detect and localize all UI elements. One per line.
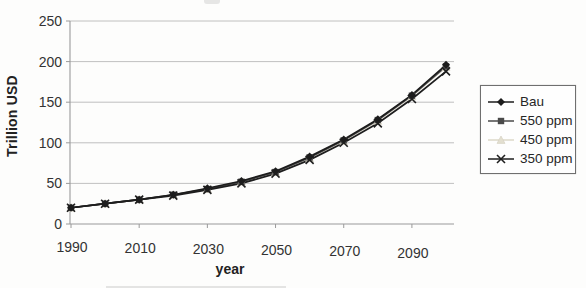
legend: Bau550 ppm450 ppm350 ppm — [480, 85, 576, 174]
legend-item-bau: Bau — [487, 92, 571, 111]
y-tick-label: 150 — [39, 94, 63, 110]
series-line-bau — [71, 65, 446, 208]
y-tick-label: 250 — [39, 13, 63, 29]
series-line-350-ppm — [71, 71, 446, 207]
x-tick-label: 2010 — [125, 240, 156, 256]
x-tick-label: 2090 — [397, 245, 428, 261]
legend-label: 450 ppm — [520, 132, 573, 147]
y-tick-label: 0 — [54, 216, 62, 232]
series-markers-350-ppm — [67, 67, 450, 211]
series-markers-bau — [67, 61, 450, 212]
scan-artifact-top — [204, 0, 220, 4]
legend-label: Bau — [520, 94, 544, 109]
scanned-line-chart-figure: 050100150200250199020102030205020702090 … — [0, 0, 586, 288]
data-point-marker — [497, 98, 505, 106]
series-markers-450-ppm — [67, 63, 450, 211]
legend-label: 350 ppm — [520, 151, 573, 166]
y-tick-label: 100 — [39, 135, 63, 151]
x-tick-label: 2070 — [329, 243, 360, 259]
x-tick-label: 2050 — [261, 242, 292, 258]
square-marker-icon — [487, 115, 517, 127]
y-tick-label: 200 — [39, 54, 63, 70]
legend-item-550-ppm: 550 ppm — [487, 111, 571, 130]
x-marker-icon — [487, 153, 517, 165]
x-tick-label: 1990 — [56, 239, 87, 255]
x-axis-title: year — [190, 261, 270, 277]
diamond-marker-icon — [487, 96, 517, 108]
y-axis-title: Trillion USD — [4, 66, 20, 166]
legend-label: 550 ppm — [520, 113, 573, 128]
legend-item-450-ppm: 450 ppm — [487, 130, 571, 149]
series-line-550-ppm — [71, 66, 446, 207]
x-tick-label: 2030 — [193, 241, 224, 257]
legend-item-350-ppm: 350 ppm — [487, 149, 571, 168]
series-markers-550-ppm — [68, 63, 449, 211]
y-tick-label: 50 — [46, 175, 62, 191]
data-point-marker — [498, 117, 504, 123]
series-line-450-ppm — [71, 67, 446, 207]
triangle-marker-icon — [487, 134, 517, 146]
